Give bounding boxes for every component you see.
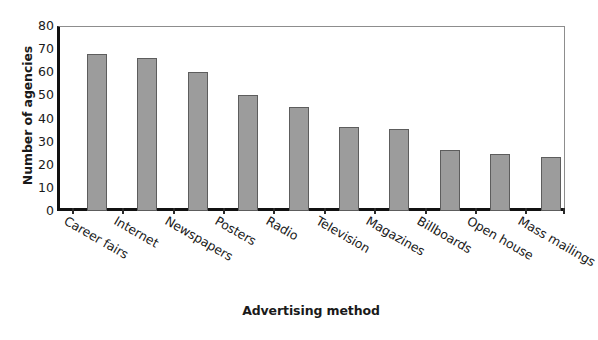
bars-layer xyxy=(57,26,565,211)
bar xyxy=(541,157,561,211)
x-category-label: Radio xyxy=(263,213,300,243)
bar xyxy=(389,129,409,211)
x-axis-category-labels: Career fairsInternetNewspapersPostersRad… xyxy=(57,213,577,303)
x-category-label: Television xyxy=(314,213,373,256)
x-axis-title: Advertising method xyxy=(57,303,565,318)
bar xyxy=(188,72,208,211)
bar xyxy=(238,95,258,211)
bar xyxy=(339,127,359,211)
bar xyxy=(137,58,157,211)
bar xyxy=(440,150,460,211)
bar xyxy=(87,54,107,211)
bar xyxy=(490,154,510,211)
bar xyxy=(289,107,309,211)
